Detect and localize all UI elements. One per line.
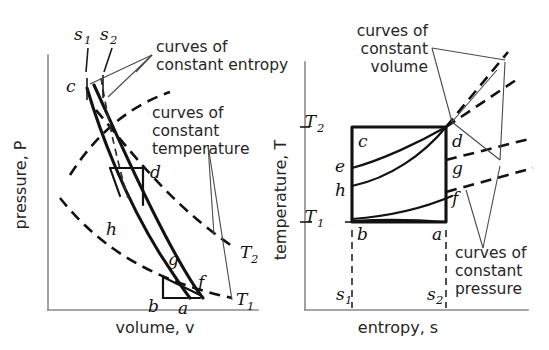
pv-temp-leader-1 [208, 145, 214, 235]
ts-curve-b-f [352, 196, 452, 219]
svg-text:volume: volume [371, 58, 428, 76]
ts-volume-leader-2 [432, 48, 452, 122]
svg-text:curves of: curves of [357, 22, 429, 40]
pv-entropy-leader-arrowhead [136, 55, 152, 72]
svg-text:curves of: curves of [152, 104, 224, 122]
ts-point-e: e [335, 156, 345, 176]
svg-text:T: T [305, 111, 318, 131]
svg-text:curves of: curves of [455, 244, 527, 262]
pv-annotation-constant-entropy: curves of constant entropy [156, 38, 288, 74]
ts-constant-volume-line-2 [446, 78, 519, 127]
svg-text:2: 2 [435, 293, 443, 307]
pv-point-b: b [148, 296, 159, 316]
svg-text:2: 2 [316, 121, 324, 135]
svg-text:T: T [305, 206, 318, 226]
svg-text:s: s [74, 24, 83, 44]
svg-text:1: 1 [84, 33, 91, 47]
svg-text:s: s [100, 24, 109, 44]
ts-pressure-leader-2 [483, 166, 500, 248]
pv-point-c: c [66, 76, 76, 96]
svg-text:constant: constant [361, 40, 428, 58]
svg-text:1: 1 [317, 216, 324, 230]
svg-text:temperature: temperature [152, 140, 249, 158]
ts-label-s1: s 1 [336, 284, 352, 307]
pv-isotherm-T1 [60, 198, 232, 298]
ts-volume-leader-1 [432, 48, 505, 60]
svg-text:1: 1 [247, 299, 254, 313]
ts-annotation-constant-pressure: curves of constant pressure [455, 244, 527, 298]
ts-pressure-leader-1 [466, 190, 483, 248]
pv-label-s2: s 2 [100, 24, 117, 47]
svg-text:2: 2 [109, 33, 117, 47]
svg-text:constant: constant [152, 122, 219, 140]
ts-point-g: g [452, 158, 463, 178]
ts-label-T2: T 2 [305, 111, 325, 135]
svg-text:constant: constant [455, 262, 522, 280]
ts-constant-volume-line-1 [446, 52, 508, 127]
thermodynamic-figure: s 1 s 2 c d h g f b a T 2 T 1 curves of … [0, 0, 549, 350]
svg-text:pressure: pressure [455, 280, 522, 298]
ts-y-axis-label: temperature, T [271, 140, 290, 261]
pv-point-h: h [106, 219, 117, 239]
svg-text:2: 2 [250, 252, 258, 266]
ts-point-d: d [452, 131, 463, 151]
ts-diagram: T 2 T 1 s 1 s 2 c d e h g f b a curves o… [271, 22, 533, 337]
pv-annotation-constant-temperature: curves of constant temperature [152, 104, 249, 158]
svg-text:s: s [427, 284, 436, 304]
pv-label-s1: s 1 [74, 24, 91, 47]
svg-text:1: 1 [345, 293, 352, 307]
svg-text:s: s [336, 284, 345, 304]
pv-y-axis-label: pressure, P [11, 140, 30, 229]
ts-point-c: c [358, 131, 368, 151]
pv-label-T2: T 2 [240, 242, 258, 266]
pv-point-d: d [150, 162, 161, 182]
pv-point-g: g [168, 249, 179, 269]
ts-annotation-constant-volume: curves of constant volume [357, 22, 429, 76]
pv-s1-tick [86, 48, 88, 72]
pv-point-f: f [196, 272, 207, 292]
pv-point-a: a [178, 298, 188, 318]
svg-text:curves of: curves of [156, 38, 228, 56]
ts-point-h: h [335, 180, 346, 200]
pv-entropy-leader-1 [90, 55, 152, 84]
pv-x-axis-label: volume, v [116, 318, 195, 337]
ts-point-f: f [450, 188, 461, 208]
svg-text:constant entropy: constant entropy [156, 56, 288, 74]
ts-label-T1: T 1 [305, 206, 325, 230]
ts-point-a: a [432, 224, 442, 244]
ts-x-axis-label: entropy, s [358, 318, 438, 337]
ts-point-b: b [357, 224, 368, 244]
pv-s2-tick [104, 48, 112, 72]
pv-diagram: s 1 s 2 c d h g f b a T 2 T 1 curves of … [11, 24, 288, 337]
pv-temp-leader-2 [208, 145, 232, 300]
figure-canvas: s 1 s 2 c d h g f b a T 2 T 1 curves of … [0, 0, 549, 350]
ts-label-s2: s 2 [427, 284, 443, 307]
